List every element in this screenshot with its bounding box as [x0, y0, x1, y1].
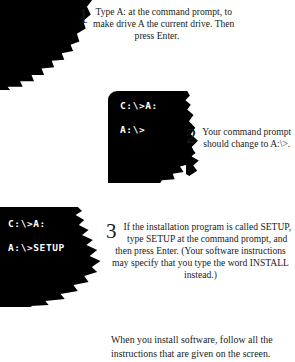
step-1: 1 Type A: at the command prompt, to make… [78, 6, 236, 42]
step-3-text: If the installation program is called SE… [106, 221, 295, 281]
step-3: 3 If the installation program is called … [106, 221, 295, 281]
step-1-text: Type A: at the command prompt, to make d… [78, 6, 236, 42]
terminal-2-line-1: C:\>A: [8, 218, 46, 229]
scanned-book-page: C:\>A: A:\> C:\>A: A:\>SETUP 1 Type A: a… [0, 0, 295, 362]
terminal-2-line-2: A:\>SETUP [8, 242, 65, 253]
closing-note: When you install software, follow all th… [111, 333, 295, 360]
step-2: 2 Your command prompt should change to A… [186, 126, 294, 150]
step-2-number: 2 [186, 127, 197, 146]
step-2-text: Your command prompt should change to A:\… [186, 126, 294, 150]
terminal-1-line-1: C:\>A: [120, 100, 158, 111]
terminal-1-line-2: A:\> [120, 124, 145, 135]
step-3-number: 3 [106, 222, 117, 241]
step-1-number: 1 [78, 7, 89, 26]
